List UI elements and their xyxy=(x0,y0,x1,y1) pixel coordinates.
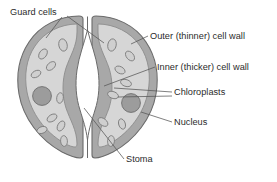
label-inner-cell-wall: Inner (thicker) cell wall xyxy=(157,62,249,72)
label-chloroplasts: Chloroplasts xyxy=(174,87,226,97)
label-stoma: Stoma xyxy=(126,154,154,164)
label-guard-cells: Guard cells xyxy=(10,7,57,17)
stomata-diagram: Guard cells Outer (thinner) cell wall In… xyxy=(0,0,277,182)
label-outer-cell-wall: Outer (thinner) cell wall xyxy=(150,31,245,41)
label-nucleus: Nucleus xyxy=(174,117,208,127)
guard-cell-left xyxy=(18,16,83,158)
nucleus-left xyxy=(33,87,52,106)
guard-cell-right xyxy=(92,16,157,158)
